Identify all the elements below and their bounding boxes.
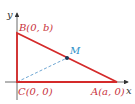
midpoint-m bbox=[65, 56, 69, 60]
point-a-label: A(a, 0) bbox=[90, 86, 125, 97]
median-cm bbox=[17, 58, 67, 82]
point-b-label: B(0, b) bbox=[18, 22, 53, 33]
x-axis-label: x bbox=[126, 85, 132, 96]
y-axis-label: y bbox=[6, 9, 13, 20]
point-c-label: C(0, 0) bbox=[18, 86, 53, 97]
point-m-label: M bbox=[69, 45, 81, 56]
triangle-diagram: y x B(0, b) C(0, 0) A(a, 0) M bbox=[0, 0, 135, 104]
